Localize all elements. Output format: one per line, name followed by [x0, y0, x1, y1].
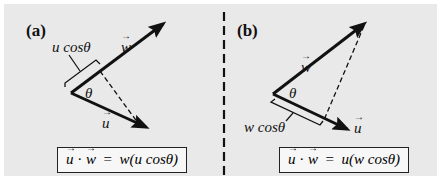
eq-b-rhs: u(w cosθ)	[341, 151, 400, 168]
panel-b-tag: (b)	[237, 22, 258, 39]
eq-a-dot: ·	[77, 151, 82, 168]
panel-b-vectors	[271, 24, 364, 129]
panel-b-theta: θ	[289, 86, 296, 101]
panel-b-projection-label: w cosθ	[244, 120, 285, 135]
panel-a-theta: θ	[85, 86, 92, 101]
eq-a-rhs: w(u cosθ)	[119, 151, 178, 168]
eq-a-w: w	[86, 151, 96, 168]
panel-b-equation-box: u · w = u(w cosθ)	[279, 147, 409, 173]
panel-b-w-label: w	[301, 60, 311, 75]
eq-a-u: u	[66, 151, 74, 168]
panel-a-w-label: w	[121, 40, 131, 55]
eq-a-equals: =	[104, 151, 112, 168]
bracket-leader-a	[69, 55, 80, 71]
eq-b-equals: =	[326, 151, 334, 168]
panel-a-equation-box: u · w = w(u cosθ)	[57, 147, 187, 173]
panel-b-u-label: u	[354, 121, 362, 136]
panel-a-tag: (a)	[26, 22, 46, 39]
panel-a-projection-label: u cosθ	[52, 40, 91, 55]
panel-a-u-label: u	[102, 116, 110, 131]
eq-b-dot: ·	[299, 151, 304, 168]
eq-b-w: w	[308, 151, 318, 168]
vector-w-a	[71, 24, 163, 93]
bracket-leader-b	[286, 113, 293, 121]
eq-b-u: u	[288, 151, 296, 168]
